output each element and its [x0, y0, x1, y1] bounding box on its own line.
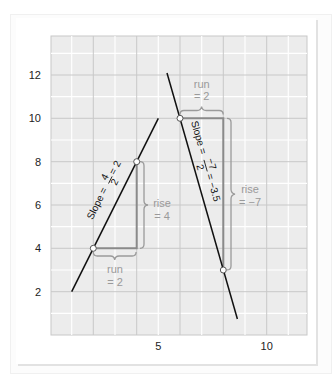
y-tick-label: 4 — [35, 242, 41, 254]
rise-value: = 4 — [154, 210, 170, 222]
plot-area — [51, 36, 307, 335]
rise-label: rise — [241, 183, 259, 195]
y-tick-label: 6 — [35, 199, 41, 211]
data-point — [90, 245, 96, 251]
y-tick-label: 8 — [35, 156, 41, 168]
rise-label: rise — [153, 197, 171, 209]
slope-chart: 12 10 8 6 4 2 5 10 run = 2 rise = 4 Slop… — [0, 0, 335, 384]
y-tick-label: 12 — [29, 69, 41, 81]
y-axis-labels: 12 10 8 6 4 2 — [29, 69, 41, 298]
x-tick-label: 10 — [261, 340, 273, 352]
run-label: run — [107, 263, 123, 275]
data-point — [177, 115, 183, 121]
y-tick-label: 2 — [35, 286, 41, 298]
data-point — [220, 267, 226, 273]
run-label: run — [194, 78, 210, 90]
run-value: = 2 — [194, 90, 210, 102]
y-tick-label: 10 — [29, 112, 41, 124]
x-tick-label: 5 — [155, 340, 161, 352]
x-axis-labels: 5 10 — [155, 340, 273, 352]
data-point — [134, 159, 140, 165]
rise-value: = −7 — [239, 196, 261, 208]
run-value: = 2 — [107, 276, 123, 288]
